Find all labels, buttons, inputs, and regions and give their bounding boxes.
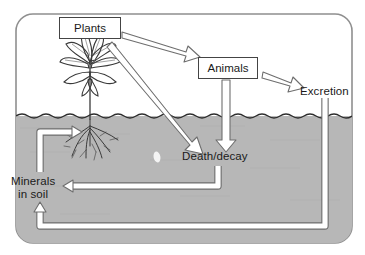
node-death-decay[interactable]: Death/decay: [182, 150, 248, 163]
node-animals-label: Animals: [208, 62, 249, 74]
node-plants-label: Plants: [74, 22, 106, 34]
node-excretion-label: Excretion: [300, 85, 349, 97]
node-excretion[interactable]: Excretion: [300, 85, 349, 98]
diagram-canvas: [0, 0, 365, 255]
nutrient-cycle-diagram: Plants Animals Excretion Death/decay Min…: [0, 0, 365, 255]
node-minerals-label-line1: Minerals: [11, 175, 55, 188]
node-animals[interactable]: Animals: [198, 57, 258, 79]
node-plants[interactable]: Plants: [59, 17, 121, 39]
node-minerals-in-soil[interactable]: Minerals in soil: [11, 175, 55, 201]
node-death-decay-label: Death/decay: [182, 150, 248, 162]
node-minerals-label-line2: in soil: [11, 188, 55, 201]
